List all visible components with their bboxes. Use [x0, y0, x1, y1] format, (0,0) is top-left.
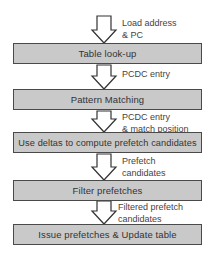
step-filter-prefetches: Filter prefetches — [13, 180, 202, 201]
edge-label-line: & PC — [122, 29, 177, 41]
arrow-down-icon — [92, 16, 116, 43]
edge-label-line: PCDC entry — [122, 68, 170, 80]
edge-label-line: Load address — [122, 17, 177, 29]
arrow-down-icon — [92, 111, 116, 132]
flowchart: Load address & PC PCDC entry PCDC entry … — [0, 0, 216, 258]
step-issue-update: Issue prefetches & Update table — [13, 224, 202, 245]
arrow-down-icon — [92, 154, 116, 180]
step-table-lookup: Table look-up — [13, 43, 202, 64]
edge-label-line: Prefetch — [122, 155, 166, 167]
step-pattern-matching: Pattern Matching — [13, 89, 202, 110]
arrow-down-icon — [92, 201, 116, 224]
edge-label-line: candidates — [122, 167, 166, 179]
edge-label-filtered-candidates: Filtered prefetch candidates — [118, 201, 183, 225]
arrow-down-icon — [92, 65, 116, 89]
edge-label-pcdc-entry: PCDC entry — [122, 68, 170, 80]
step-compute-candidates: Use deltas to compute prefetch candidate… — [13, 132, 202, 153]
edge-label-line: Filtered prefetch — [118, 201, 183, 213]
edge-label-load-address: Load address & PC — [122, 17, 177, 41]
edge-label-prefetch-candidates: Prefetch candidates — [122, 155, 166, 179]
edge-label-line: PCDC entry — [122, 111, 189, 123]
